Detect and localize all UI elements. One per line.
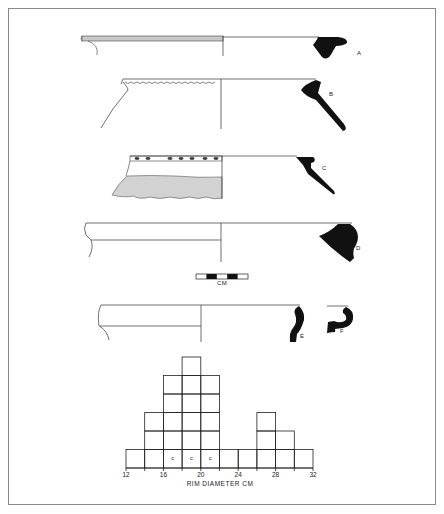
histogram-cell: [201, 413, 220, 432]
histogram-cell: [220, 450, 239, 469]
histogram-cell: [163, 376, 182, 395]
histogram-cell: [182, 413, 201, 432]
histogram-cell: [276, 450, 295, 469]
profile-a: [81, 36, 347, 59]
profile-e: [98, 305, 304, 342]
histogram-cell: [294, 450, 313, 469]
histogram: [126, 357, 313, 471]
profile-label-a: A: [357, 50, 361, 56]
pottery-drawings: [0, 0, 444, 514]
x-axis-label: RIM DIAMETER CM: [187, 480, 254, 487]
profile-label-d: D: [356, 245, 361, 251]
histogram-cell: [126, 450, 145, 469]
histogram-cell: [257, 413, 276, 432]
histogram-cell: [238, 450, 257, 469]
profile-d: [85, 223, 359, 262]
x-tick-label: 24: [235, 471, 242, 478]
cell-annotation: c: [171, 455, 174, 461]
histogram-cell: [145, 450, 164, 469]
profile-label-f: F: [340, 328, 344, 334]
profile-label-b: B: [329, 91, 333, 97]
histogram-cell: [201, 376, 220, 395]
x-tick-label: 16: [160, 471, 167, 478]
profile-label-c: C: [322, 165, 327, 171]
x-tick-label: 32: [309, 471, 316, 478]
histogram-cell: [201, 394, 220, 413]
profile-label-e: E: [300, 333, 304, 339]
histogram-cell: [145, 431, 164, 450]
x-tick-label: 28: [272, 471, 279, 478]
histogram-cell: [182, 357, 201, 376]
x-tick-label: 12: [122, 471, 129, 478]
histogram-cell: [182, 394, 201, 413]
histogram-cell: [163, 413, 182, 432]
histogram-cell: [182, 431, 201, 450]
histogram-cell: [201, 431, 220, 450]
profile-c: [112, 156, 335, 199]
profile-b: [101, 79, 346, 131]
scale-bar: [196, 274, 248, 279]
histogram-cell: [163, 394, 182, 413]
cell-annotation: c: [190, 455, 193, 461]
histogram-cell: [257, 450, 276, 469]
histogram-cell: [145, 413, 164, 432]
histogram-cell: [163, 431, 182, 450]
histogram-cell: [182, 376, 201, 395]
x-tick-label: 20: [197, 471, 204, 478]
histogram-cell: [276, 431, 295, 450]
cell-annotation: c: [209, 455, 212, 461]
histogram-cell: [257, 431, 276, 450]
scale-bar-label: CM: [217, 280, 227, 286]
